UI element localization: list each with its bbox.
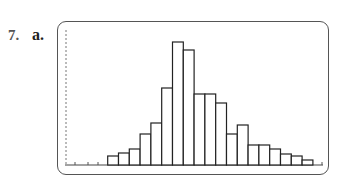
histogram-bar	[183, 50, 194, 165]
histogram-bar	[302, 160, 313, 165]
histogram-bar	[119, 153, 130, 165]
histogram-bar	[205, 94, 216, 165]
histogram-bar	[291, 156, 302, 165]
histogram-bar	[237, 125, 248, 165]
histogram-bar	[227, 134, 238, 165]
histogram-bar	[270, 149, 281, 165]
histogram-bar	[140, 134, 151, 165]
histogram-bar	[173, 42, 184, 165]
bars	[108, 42, 313, 165]
histogram-bar	[129, 149, 140, 165]
histogram	[0, 0, 341, 184]
histogram-bar	[194, 94, 205, 165]
histogram-bar	[216, 103, 227, 165]
histogram-bar	[281, 154, 292, 165]
histogram-bar	[162, 88, 173, 165]
histogram-bar	[259, 145, 270, 165]
histogram-bar	[151, 123, 162, 165]
histogram-bar	[108, 156, 119, 165]
histogram-bar	[248, 145, 259, 165]
